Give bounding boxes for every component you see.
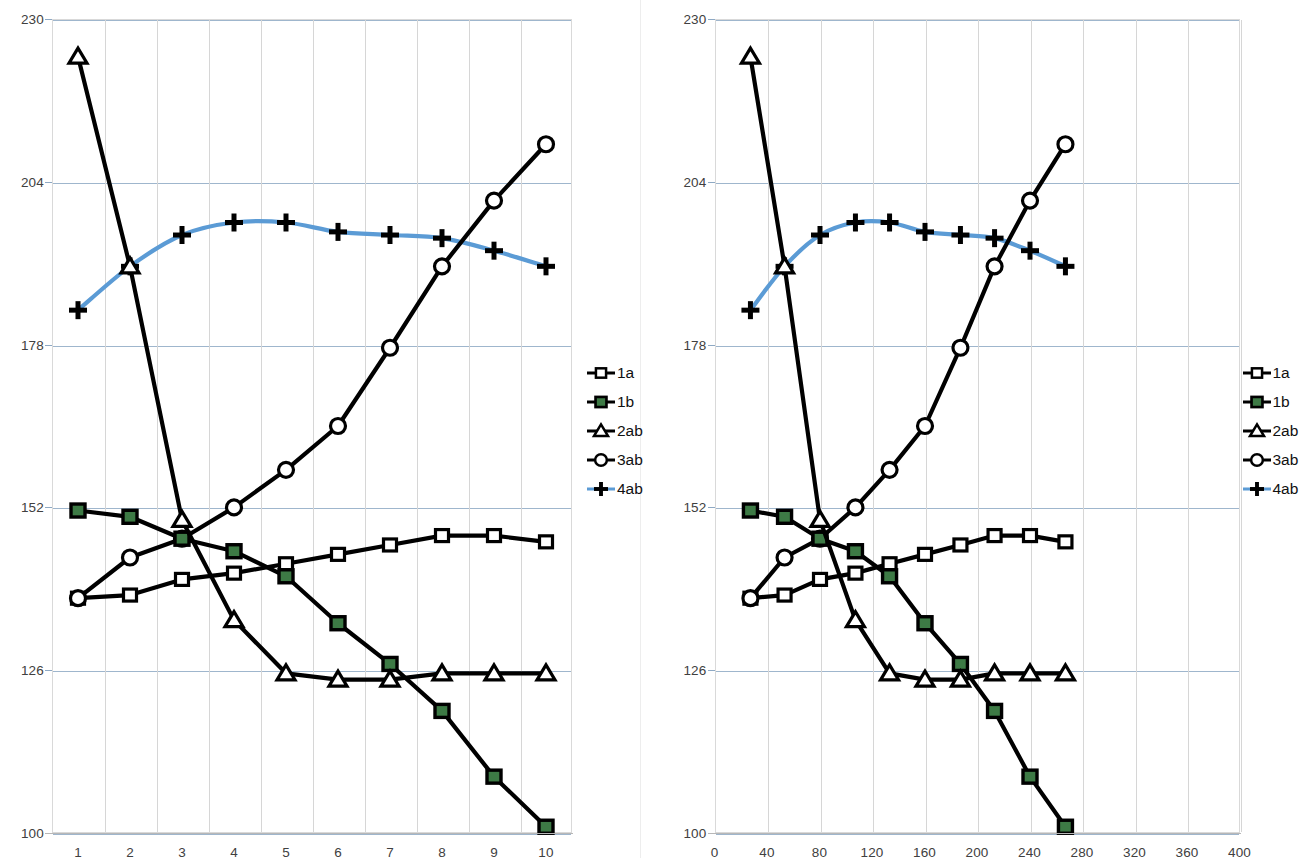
open-triangle-icon	[1242, 421, 1272, 441]
y-axis-label: 126	[4, 663, 44, 678]
x-axis-label: 160	[913, 845, 936, 858]
plus-icon	[1242, 479, 1272, 499]
legend-item-1b[interactable]: 1b	[1242, 387, 1299, 416]
x-axis-label: 80	[812, 845, 827, 858]
x-axis-label: 9	[490, 845, 498, 858]
x-axis-label: 280	[1070, 845, 1093, 858]
y-axis-tick	[45, 507, 52, 508]
y-axis-label: 152	[667, 500, 707, 515]
y-axis-tick	[708, 670, 715, 671]
legend-item-label: 2ab	[617, 423, 643, 439]
legend-item-label: 2ab	[1273, 423, 1299, 439]
series-4ab	[69, 214, 555, 320]
legend-item-4ab[interactable]: 4ab	[586, 474, 643, 503]
legend-item-4ab[interactable]: 4ab	[1242, 474, 1299, 503]
series-layer-left	[0, 0, 640, 858]
plus-icon	[586, 479, 616, 499]
series-layer-right	[647, 0, 1300, 858]
filled-square-icon	[1242, 392, 1272, 412]
x-axis-label: 6	[334, 845, 342, 858]
y-axis-tick	[45, 19, 52, 20]
legend-item-2ab[interactable]: 2ab	[586, 416, 643, 445]
series-1a	[743, 530, 1071, 605]
chart-page: 10012615217820423012345678910 1a1b2ab3ab…	[0, 0, 1300, 858]
x-axis-label: 240	[1018, 845, 1041, 858]
chart-panel-right: 1001261521782042300408012016020024028032…	[647, 0, 1300, 858]
y-axis-label: 230	[667, 12, 707, 27]
filled-square-icon	[586, 392, 616, 412]
x-axis-label: 7	[386, 845, 394, 858]
open-circle-icon	[586, 450, 616, 470]
open-circle-icon	[1242, 450, 1272, 470]
x-axis-label: 360	[1175, 845, 1198, 858]
y-axis-label: 100	[667, 826, 707, 841]
legend-item-label: 1a	[617, 365, 634, 381]
y-axis-label: 126	[667, 663, 707, 678]
x-axis-label: 5	[282, 845, 290, 858]
x-axis-label: 320	[1123, 845, 1146, 858]
open-square-icon	[586, 363, 616, 383]
legend-item-label: 1b	[1273, 394, 1290, 410]
x-axis-label: 8	[438, 845, 446, 858]
legend-item-1b[interactable]: 1b	[586, 387, 643, 416]
y-axis-tick	[708, 507, 715, 508]
legend-item-2ab[interactable]: 2ab	[1242, 416, 1299, 445]
legend-item-label: 3ab	[1273, 452, 1299, 468]
legend-item-label: 1b	[617, 394, 634, 410]
y-axis-tick	[708, 345, 715, 346]
x-axis-label: 120	[860, 845, 883, 858]
x-axis-label: 4	[230, 845, 238, 858]
legend-item-3ab[interactable]: 3ab	[1242, 445, 1299, 474]
y-axis-label: 100	[4, 826, 44, 841]
x-axis-label: 2	[126, 845, 134, 858]
chart-panel-left: 10012615217820423012345678910 1a1b2ab3ab…	[0, 0, 640, 858]
series-1a	[72, 530, 553, 605]
legend-item-1a[interactable]: 1a	[586, 358, 643, 387]
y-axis-label: 152	[4, 500, 44, 515]
x-axis-line	[708, 833, 1241, 834]
x-axis-label: 10	[538, 845, 553, 858]
y-axis-label: 178	[667, 337, 707, 352]
y-axis-tick	[45, 182, 52, 183]
x-axis-label: 40	[759, 845, 774, 858]
y-axis-tick	[45, 345, 52, 346]
y-axis-tick	[708, 19, 715, 20]
y-axis-label: 178	[4, 337, 44, 352]
legend-item-label: 4ab	[1273, 481, 1299, 497]
x-axis-label: 3	[178, 845, 186, 858]
legend-right: 1a1b2ab3ab4ab	[1242, 358, 1299, 503]
y-axis-tick	[45, 670, 52, 671]
legend-item-label: 3ab	[617, 452, 643, 468]
open-triangle-icon	[586, 421, 616, 441]
x-axis-label: 200	[965, 845, 988, 858]
x-axis-label: 0	[711, 845, 719, 858]
legend-left: 1a1b2ab3ab4ab	[586, 358, 643, 503]
legend-item-label: 4ab	[617, 481, 643, 497]
legend-item-3ab[interactable]: 3ab	[586, 445, 643, 474]
y-axis-label: 204	[667, 174, 707, 189]
y-axis-tick	[708, 182, 715, 183]
x-axis-line	[45, 833, 573, 834]
legend-item-label: 1a	[1273, 365, 1290, 381]
x-axis-label: 400	[1228, 845, 1251, 858]
x-axis-label: 1	[74, 845, 82, 858]
y-axis-label: 204	[4, 174, 44, 189]
legend-item-1a[interactable]: 1a	[1242, 358, 1299, 387]
open-square-icon	[1242, 363, 1272, 383]
y-axis-label: 230	[4, 12, 44, 27]
